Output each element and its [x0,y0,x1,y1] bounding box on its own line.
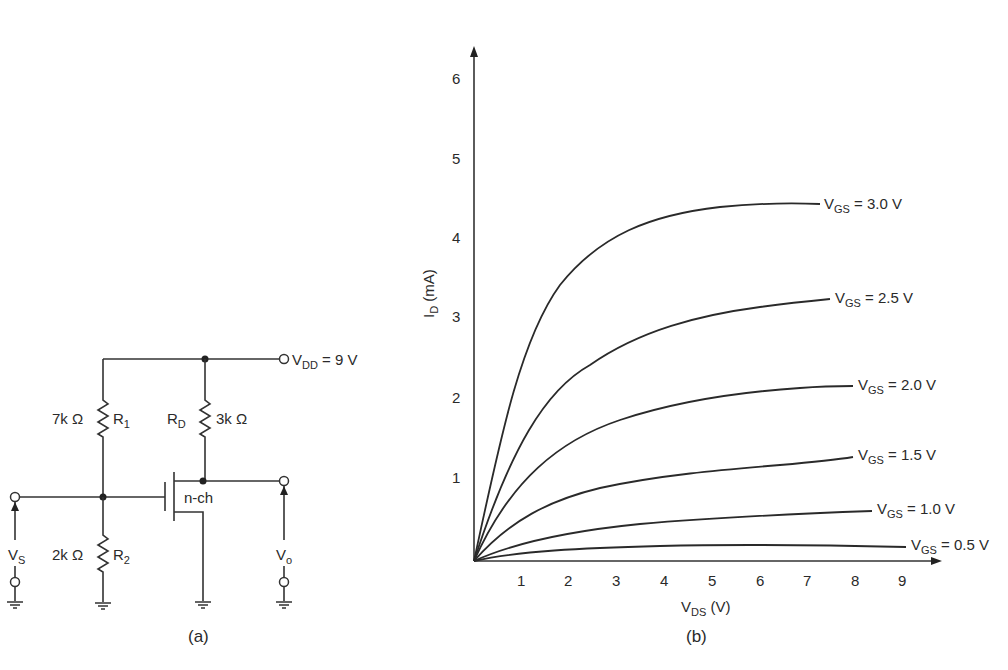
curve-vgs-3-0 [474,203,820,561]
rd-value: 3k Ω [216,410,247,427]
vs-label: VS [8,546,25,566]
y-axis-arrow-icon [470,46,478,57]
curve-vgs-0-5 [474,545,906,561]
rd-label: RD [167,410,186,430]
r1-label: R1 [113,410,130,430]
svg-text:5: 5 [708,572,716,589]
svg-text:9: 9 [898,572,906,589]
label-vgs-2-0: VGS = 2.0 V [858,376,936,396]
transistor-label: n-ch [184,489,213,506]
x-axis-title: VDS (V) [681,598,730,618]
r1-value: 7k Ω [52,410,83,427]
chart-caption: (b) [686,627,707,646]
curve-vgs-1-0 [474,511,872,561]
ground-icon-vo [276,602,292,608]
x-tick-labels: 1 2 3 4 5 6 7 8 9 [517,572,906,589]
label-vgs-2-5: VGS = 2.5 V [835,289,913,309]
ground-icon-source [195,602,211,608]
resistor-r2 [98,497,108,602]
circuit-diagram: VDD = 9 V 7k Ω R1 RD 3k Ω n-ch 2k Ω R2 V… [7,351,358,646]
svg-text:2: 2 [564,572,572,589]
svg-text:7: 7 [803,572,811,589]
svg-text:3: 3 [452,308,460,325]
id-vds-chart: 1 2 3 4 5 6 1 2 3 4 5 6 7 8 9 VDS (V) ID… [420,46,989,646]
figure-canvas: VDD = 9 V 7k Ω R1 RD 3k Ω n-ch 2k Ω R2 V… [0,0,1008,670]
label-vgs-0-5: VGS = 0.5 V [911,536,989,556]
circuit-caption: (a) [188,627,209,646]
r2-label: R2 [113,546,130,566]
svg-text:6: 6 [452,70,460,87]
svg-text:4: 4 [452,229,460,246]
label-vgs-1-5: VGS = 1.5 V [858,446,936,466]
svg-text:3: 3 [612,572,620,589]
x-axis-arrow-icon [931,557,942,565]
y-tick-labels: 1 2 3 4 5 6 [452,70,460,486]
svg-text:2: 2 [452,389,460,406]
ground-icon-vs [7,602,23,608]
resistor-r1 [98,359,108,497]
vo-bottom-terminal [280,578,289,587]
vs-bottom-terminal [11,578,20,587]
svg-text:1: 1 [452,469,460,486]
ground-icon-r2 [95,603,111,609]
vs-top-terminal [11,493,20,502]
r2-value: 2k Ω [52,546,83,563]
svg-text:1: 1 [517,572,525,589]
vo-arrow-icon [280,486,288,495]
vs-arrow-icon [11,502,19,511]
label-vgs-3-0: VGS = 3.0 V [824,195,902,215]
resistor-rd [200,359,210,481]
svg-text:4: 4 [660,572,668,589]
drain-node-dot [200,478,207,485]
vo-top-terminal [280,477,289,486]
vo-label: Vo [276,546,292,566]
y-axis-title: ID (mA) [420,269,440,318]
vdd-terminal [280,355,289,364]
curve-vgs-2-0 [474,386,853,561]
svg-text:6: 6 [756,572,764,589]
label-vgs-1-0: VGS = 1.0 V [877,500,955,520]
source-wire [174,512,203,601]
vdd-label: VDD = 9 V [292,351,358,371]
svg-text:5: 5 [452,150,460,167]
svg-text:8: 8 [851,572,859,589]
curve-vgs-2-5 [474,299,830,561]
